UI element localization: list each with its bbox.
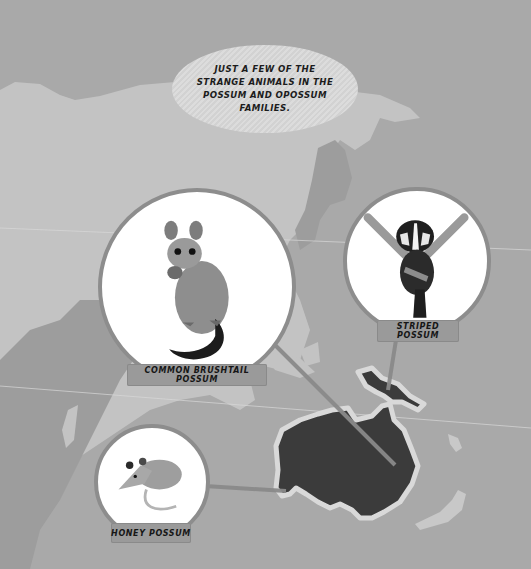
striped-possum-label: STRIPED POSSUM xyxy=(377,320,459,342)
brushtail-possum-bubble xyxy=(98,188,296,386)
caption-speech-bubble: JUST A FEW OF THE STRANGE ANIMALS IN THE… xyxy=(172,45,358,133)
brushtail-possum-label: COMMON BRUSHTAIL POSSUM xyxy=(127,364,267,386)
striped-possum-illustration-icon xyxy=(347,191,487,331)
caption-text: JUST A FEW OF THE STRANGE ANIMALS IN THE… xyxy=(195,63,335,115)
honey-possum-illustration-icon xyxy=(98,428,206,536)
australia-outline xyxy=(276,404,418,518)
new-zealand-north-island xyxy=(448,434,462,452)
new-zealand-south-island xyxy=(415,490,466,530)
striped-possum-bubble xyxy=(343,187,491,335)
brushtail-possum-illustration-icon xyxy=(102,192,292,382)
honey-possum-label: HONEY POSSUM xyxy=(111,523,191,543)
